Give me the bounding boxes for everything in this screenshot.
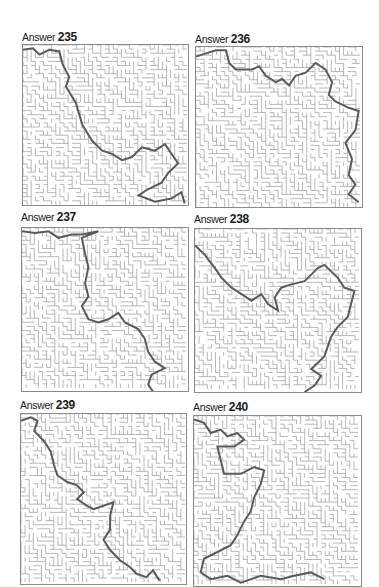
maze-grid <box>21 414 186 584</box>
caption-label: Answer <box>21 211 54 223</box>
maze-answer-236 <box>195 46 363 208</box>
maze-grid <box>196 47 362 207</box>
maze-answer-239 <box>20 413 187 585</box>
answer-caption-237: Answer 237 <box>21 210 76 224</box>
maze-grid <box>23 45 188 205</box>
maze-grid <box>194 416 361 586</box>
caption-label: Answer <box>195 33 228 45</box>
answer-caption-240: Answer 240 <box>193 400 248 414</box>
maze-answer-238 <box>194 228 362 393</box>
caption-number: 235 <box>58 30 77 44</box>
maze-grid <box>22 228 188 391</box>
maze-answer-235 <box>22 44 189 206</box>
answer-caption-238: Answer 238 <box>194 212 249 226</box>
caption-label: Answer <box>193 401 226 413</box>
caption-label: Answer <box>20 399 53 411</box>
caption-number: 238 <box>230 212 249 226</box>
answer-caption-239: Answer 239 <box>20 398 75 412</box>
maze-grid <box>195 229 361 392</box>
caption-number: 240 <box>229 400 248 414</box>
caption-label: Answer <box>22 31 55 43</box>
maze-answer-237 <box>21 227 189 392</box>
solution-path <box>22 231 165 391</box>
answer-caption-236: Answer 236 <box>195 32 250 46</box>
caption-label: Answer <box>194 213 227 225</box>
caption-number: 239 <box>56 398 75 412</box>
answer-caption-235: Answer 235 <box>22 30 77 44</box>
maze-answer-240 <box>193 415 362 587</box>
caption-number: 237 <box>57 210 76 224</box>
caption-number: 236 <box>231 32 250 46</box>
